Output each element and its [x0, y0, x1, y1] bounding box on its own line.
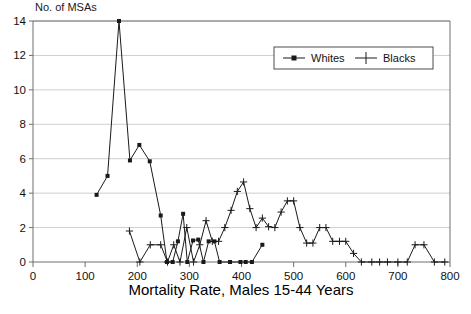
- y-axis-ticks: [29, 21, 33, 262]
- data-point-marker: [117, 19, 121, 23]
- series-line-blacks: [129, 182, 444, 262]
- data-point-marker: [181, 212, 185, 216]
- y-tick-label: 6: [20, 153, 26, 165]
- y-tick-label: 2: [20, 222, 26, 234]
- legend-label-whites: Whites: [311, 52, 345, 64]
- data-point-marker: [148, 159, 152, 163]
- y-tick-label: 0: [20, 256, 26, 268]
- data-point-marker: [228, 260, 232, 264]
- data-point-marker: [159, 214, 163, 218]
- x-tick-label: 0: [30, 270, 36, 282]
- x-tick-label: 800: [440, 270, 459, 282]
- data-point-marker: [128, 158, 132, 162]
- y-axis-tick-labels: 02468101214: [13, 15, 26, 268]
- data-point-marker: [106, 174, 110, 178]
- data-point-marker: [201, 260, 205, 264]
- y-tick-label: 8: [20, 118, 26, 130]
- y-tick-label: 12: [13, 49, 26, 61]
- data-point-marker: [191, 238, 195, 242]
- data-point-marker: [176, 239, 180, 243]
- data-point-marker: [95, 193, 99, 197]
- series-blacks: [126, 178, 449, 265]
- legend-label-blacks: Blacks: [383, 52, 416, 64]
- data-point-marker: [260, 243, 264, 247]
- data-point-marker: [238, 260, 242, 264]
- data-point-marker: [185, 260, 189, 264]
- series-line-whites: [97, 21, 263, 262]
- y-axis-label: No. of MSAs: [35, 1, 97, 13]
- y-tick-label: 10: [13, 84, 26, 96]
- square-marker-icon: [292, 56, 297, 61]
- x-tick-label: 700: [388, 270, 407, 282]
- y-tick-label: 14: [13, 15, 26, 27]
- data-point-marker: [196, 238, 200, 242]
- x-tick-label: 100: [76, 270, 95, 282]
- y-tick-label: 4: [20, 187, 27, 199]
- data-point-marker: [171, 260, 175, 264]
- data-point-marker: [244, 260, 248, 264]
- data-point-marker: [218, 260, 222, 264]
- chart-legend: Whites Blacks: [274, 47, 433, 69]
- chart-svg: No. of MSAs 02468101214 0100200300400500…: [0, 0, 471, 314]
- data-point-marker: [137, 143, 141, 147]
- chart-container: No. of MSAs 02468101214 0100200300400500…: [0, 0, 471, 314]
- x-axis-title: Mortality Rate, Males 15-44 Years: [128, 281, 353, 298]
- data-point-marker: [250, 260, 254, 264]
